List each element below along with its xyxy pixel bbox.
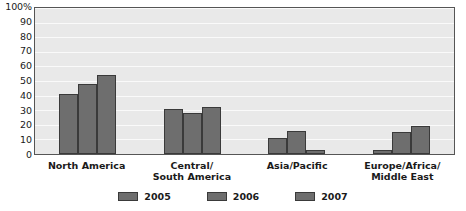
y-axis-tick-label: 80 bbox=[0, 32, 32, 42]
x-axis-category-label-line: Asia/Pacific bbox=[245, 160, 350, 171]
y-axis-tick-label: 40 bbox=[0, 91, 32, 101]
plot-area bbox=[34, 7, 455, 155]
bar-group bbox=[35, 8, 140, 154]
x-axis-category-label-line: Middle East bbox=[350, 171, 455, 182]
y-axis-tick-label: 0 bbox=[0, 150, 32, 160]
x-axis-category-label-line: South America bbox=[139, 171, 244, 182]
bar-chart-figure: 100%9080706050403020100 North AmericaCen… bbox=[0, 0, 466, 211]
bar bbox=[202, 107, 221, 154]
x-axis-category-label-line: Europe/Africa/ bbox=[350, 160, 455, 171]
x-axis-category-label: Asia/Pacific bbox=[245, 160, 350, 182]
y-axis-tick-label: 60 bbox=[0, 61, 32, 71]
y-axis-tick-label: 20 bbox=[0, 121, 32, 131]
bars-layer bbox=[35, 8, 454, 154]
bar bbox=[268, 138, 287, 154]
x-axis-category-labels: North AmericaCentral/South AmericaAsia/P… bbox=[34, 160, 455, 182]
legend-entry: 2005 bbox=[118, 192, 170, 202]
x-axis-category-label: North America bbox=[34, 160, 139, 182]
legend-entry: 2007 bbox=[295, 192, 347, 202]
legend-color-swatch bbox=[295, 192, 315, 201]
bar bbox=[411, 126, 430, 154]
legend-label: 2006 bbox=[233, 192, 259, 202]
bar bbox=[164, 109, 183, 154]
x-axis-category-label: Central/South America bbox=[139, 160, 244, 182]
bar bbox=[59, 94, 78, 154]
bar-group bbox=[245, 8, 350, 154]
legend-label: 2007 bbox=[321, 192, 347, 202]
y-axis-tick-label: 10 bbox=[0, 135, 32, 145]
bar bbox=[183, 113, 202, 154]
bar bbox=[392, 132, 411, 154]
x-axis-category-label-line: North America bbox=[34, 160, 139, 171]
bar bbox=[373, 150, 392, 154]
bar bbox=[97, 75, 116, 154]
x-axis-category-label-line: Central/ bbox=[139, 160, 244, 171]
chart-legend: 200520062007 bbox=[0, 192, 466, 202]
y-axis-tick-label: 50 bbox=[0, 76, 32, 86]
bar-group bbox=[140, 8, 245, 154]
bar bbox=[78, 84, 97, 154]
y-axis-tick-label: 30 bbox=[0, 106, 32, 116]
y-axis-tick-label: 100% bbox=[0, 2, 32, 12]
bar-group bbox=[349, 8, 454, 154]
y-axis-tick-label: 90 bbox=[0, 17, 32, 27]
bar bbox=[306, 150, 325, 154]
y-axis-tick-label: 70 bbox=[0, 47, 32, 57]
bar bbox=[287, 131, 306, 154]
legend-color-swatch bbox=[118, 192, 138, 201]
legend-color-swatch bbox=[207, 192, 227, 201]
x-axis-category-label: Europe/Africa/Middle East bbox=[350, 160, 455, 182]
legend-entry: 2006 bbox=[207, 192, 259, 202]
legend-label: 2005 bbox=[144, 192, 170, 202]
y-axis: 100%9080706050403020100 bbox=[0, 7, 32, 155]
